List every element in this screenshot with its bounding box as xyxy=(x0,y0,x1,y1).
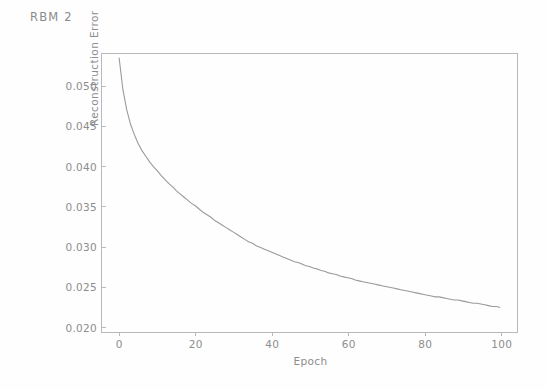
x-axis-tick-label: 60 xyxy=(342,338,356,350)
plot-area: Reconstruction Error 0.0200.0250.0300.03… xyxy=(101,53,518,333)
x-axis-tick-mark xyxy=(119,332,120,336)
x-axis-tick-label: 40 xyxy=(265,338,279,350)
x-axis-tick-label: 0 xyxy=(116,338,123,350)
x-axis-tick-label: 100 xyxy=(491,338,512,350)
y-axis-label: Reconstruction Error xyxy=(88,10,100,126)
curve-path xyxy=(119,58,500,307)
x-axis-tick-mark xyxy=(501,332,502,336)
x-axis-tick-mark xyxy=(348,332,349,336)
chart-figure: RBM 2 Reconstruction Error 0.0200.0250.0… xyxy=(0,0,546,389)
chart-title: RBM 2 xyxy=(30,10,73,24)
x-axis-tick-mark xyxy=(195,332,196,336)
x-axis-tick-label: 20 xyxy=(189,338,203,350)
x-axis-tick-mark xyxy=(272,332,273,336)
x-axis-label: Epoch xyxy=(102,355,519,367)
x-axis-tick-label: 80 xyxy=(418,338,432,350)
x-axis-tick-mark xyxy=(425,332,426,336)
reconstruction-error-curve xyxy=(102,54,517,332)
